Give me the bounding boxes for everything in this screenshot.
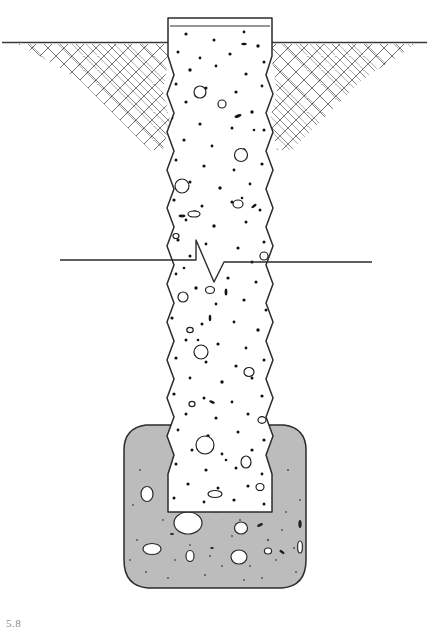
figure-canvas: 5.8	[0, 0, 429, 627]
figure-caption: 5.8	[6, 617, 21, 627]
pile-cross-section-drawing	[0, 0, 429, 627]
concrete-shaft	[167, 18, 273, 512]
